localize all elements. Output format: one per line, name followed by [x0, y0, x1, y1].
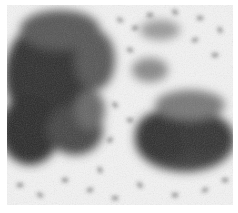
micrograph-canvas [0, 0, 238, 213]
micrograph-image [0, 0, 238, 213]
grain-overlay [7, 5, 233, 205]
